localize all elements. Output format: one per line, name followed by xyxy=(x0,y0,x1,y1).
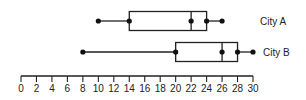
tick-label: 4 xyxy=(49,83,55,94)
q3-point xyxy=(204,18,209,23)
tick-label: 26 xyxy=(217,83,229,94)
tick-label: 0 xyxy=(18,83,24,94)
box-plot-city-b: City B xyxy=(80,43,290,62)
tick-label: 16 xyxy=(139,83,151,94)
tick-label: 10 xyxy=(93,83,105,94)
median-point xyxy=(189,18,194,23)
iqr-box xyxy=(176,43,238,62)
category-label: City A xyxy=(260,16,286,27)
tick-label: 6 xyxy=(65,83,71,94)
tick-label: 14 xyxy=(124,83,136,94)
tick-label: 20 xyxy=(170,83,182,94)
tick-label: 28 xyxy=(232,83,244,94)
min-point xyxy=(80,49,85,54)
min-point xyxy=(96,18,101,23)
tick-label: 12 xyxy=(108,83,120,94)
box-plot-chart: 024681012141618202224262830 City ACity B xyxy=(0,0,306,100)
q1-point xyxy=(127,18,132,23)
tick-label: 18 xyxy=(155,83,167,94)
median-point xyxy=(219,49,224,54)
iqr-box xyxy=(129,12,206,31)
q1-point xyxy=(173,49,178,54)
tick-label: 30 xyxy=(247,83,259,94)
x-axis: 024681012141618202224262830 xyxy=(18,76,259,94)
tick-label: 8 xyxy=(80,83,86,94)
max-point xyxy=(250,49,255,54)
q3-point xyxy=(235,49,240,54)
box-plot-city-a: City A xyxy=(96,12,287,31)
box-plots: City ACity B xyxy=(80,12,290,62)
tick-label: 22 xyxy=(186,83,198,94)
max-point xyxy=(219,18,224,23)
tick-label: 2 xyxy=(34,83,40,94)
category-label: City B xyxy=(263,47,290,58)
tick-label: 24 xyxy=(201,83,213,94)
